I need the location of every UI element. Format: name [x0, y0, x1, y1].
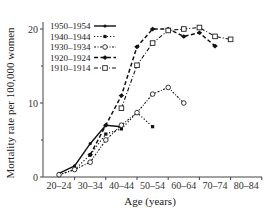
data-point-marker: [150, 41, 155, 46]
legend-item: 1950–1954: [50, 21, 116, 31]
data-point-marker: [166, 85, 171, 90]
legend-item: 1910–1914: [50, 63, 116, 73]
data-point-marker: [119, 106, 124, 111]
data-point-marker: [151, 125, 154, 128]
data-point-marker: [57, 172, 62, 177]
legend-label: 1930–1934: [50, 42, 91, 52]
x-tick-label: 20–24: [47, 180, 72, 191]
series-1910–1914: [119, 25, 233, 110]
data-point-marker: [182, 101, 187, 106]
data-point-marker: [213, 34, 218, 39]
data-point-marker: [119, 123, 124, 128]
legend-label: 1920–1924: [50, 53, 91, 63]
data-point-marker: [197, 25, 202, 30]
data-point-marker: [119, 93, 125, 98]
data-point-marker: [197, 31, 203, 36]
legend-marker: [103, 66, 108, 71]
x-tick-label: 30–34: [78, 180, 103, 191]
legend-marker: [103, 45, 108, 50]
data-point-marker: [166, 28, 171, 33]
legend-item: 1920–1924: [50, 53, 116, 63]
data-point-marker: [135, 110, 140, 115]
data-point-marker: [88, 160, 93, 165]
data-point-marker: [104, 138, 109, 143]
y-tick-label: 20: [28, 24, 38, 35]
legend-marker: [103, 35, 106, 38]
x-tick-label: 80–84: [234, 180, 259, 191]
x-axis-label: Age (years): [124, 195, 176, 208]
data-point-marker: [182, 27, 187, 32]
data-point-marker: [135, 63, 140, 68]
y-tick-label: 10: [28, 98, 38, 109]
legend-marker: [103, 24, 106, 27]
x-tick-label: 40–44: [109, 180, 134, 191]
series-line: [59, 125, 121, 173]
data-point-marker: [150, 92, 155, 97]
legend-item: 1930–1934: [50, 42, 116, 52]
legend-item: 1940–1944: [50, 32, 116, 42]
legend-label: 1940–1944: [50, 32, 91, 42]
legend-marker: [102, 55, 108, 60]
x-tick-label: 50–54: [140, 180, 165, 191]
data-point-marker: [72, 167, 77, 172]
legend: 1950–19541940–19441930–19341920–19241910…: [50, 21, 116, 73]
y-axis-label: Mortality rate per 100,000 women: [4, 27, 16, 179]
data-point-marker: [89, 142, 92, 145]
series-1950–1954: [57, 124, 123, 175]
legend-label: 1950–1954: [50, 21, 91, 31]
mortality-chart: 0102020–2430–3440–4450–5460–6470–7480–84…: [0, 0, 272, 220]
x-tick-label: 60–64: [171, 180, 196, 191]
data-point-marker: [104, 132, 107, 135]
series-line: [59, 113, 153, 175]
data-point-marker: [228, 37, 233, 42]
y-tick-label: 0: [33, 172, 38, 183]
x-tick-label: 70–74: [203, 180, 228, 191]
legend-label: 1910–1914: [50, 63, 91, 73]
